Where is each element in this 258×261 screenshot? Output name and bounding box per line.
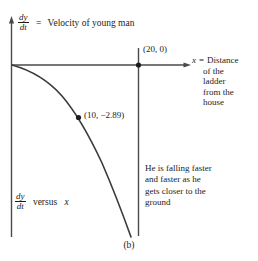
x-axis-label-line1: x=Distance: [192, 55, 239, 65]
note-line1: He is falling faster: [145, 163, 212, 174]
fraction-numerator: dy: [18, 13, 29, 22]
figure-caption: (b): [0, 240, 258, 251]
dy-dt-fraction-bottom: dy dt: [15, 192, 26, 212]
point-label-intercept: (20, 0): [143, 44, 167, 55]
graph-canvas: [0, 0, 258, 261]
x-axis-label-line4: from the: [203, 87, 239, 98]
x-variable: x: [65, 197, 69, 208]
dy-dt-fraction-top: dy dt: [18, 13, 29, 33]
fraction-denominator: dt: [18, 22, 29, 32]
x-axis-label-word1: Distance: [207, 55, 239, 65]
x-axis-label-line3: ladder: [203, 76, 239, 87]
equals-sign: =: [36, 18, 41, 29]
note-line4: ground: [145, 197, 212, 208]
marker-midpoint: [76, 115, 81, 120]
equals-sign: =: [199, 55, 204, 65]
fraction-numerator: dy: [15, 192, 26, 201]
y-axis-label-text: Velocity of young man: [48, 18, 135, 29]
note-line3: gets closer to the: [145, 186, 212, 197]
point-label-midpoint: (10, −2.89): [84, 110, 124, 121]
annotation-note: He is falling faster and faster as he ge…: [145, 163, 212, 208]
x-axis: [12, 62, 192, 67]
versus-text: versus: [33, 197, 57, 208]
fraction-denominator: dt: [15, 201, 26, 211]
note-line2: and faster as he: [145, 174, 212, 185]
x-axis-label: x=Distance of the ladder from the house: [192, 55, 239, 108]
plot-title-label: dy dt versus x: [15, 193, 69, 213]
x-variable: x: [192, 55, 196, 65]
marker-intercept: [136, 62, 141, 67]
x-axis-label-line5: house: [203, 97, 239, 108]
figure-container: dy dt = Velocity of young man (20, 0) x=…: [0, 0, 258, 261]
x-axis-label-line2: of the: [203, 66, 239, 77]
y-axis: [9, 16, 14, 237]
y-axis-label: dy dt = Velocity of young man: [18, 14, 134, 34]
